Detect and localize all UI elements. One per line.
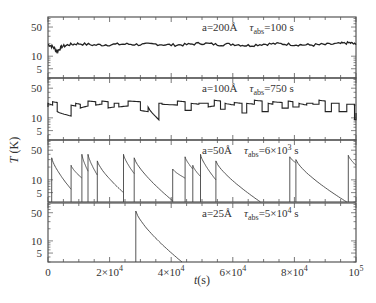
y-tick-label: 50 bbox=[31, 82, 43, 94]
y-tick-label: 5 bbox=[37, 63, 43, 75]
x-tick-label: 6×104 bbox=[219, 264, 246, 278]
decay-curve bbox=[348, 155, 356, 202]
y-axis-label: T (K) bbox=[7, 137, 21, 163]
decay-curve bbox=[201, 154, 216, 202]
decay-curve bbox=[134, 158, 173, 202]
x-tick-label: 4×104 bbox=[158, 264, 185, 278]
panel-annotation: a=200Åτabs=100 s bbox=[202, 21, 294, 36]
x-axis-label: t(s) bbox=[194, 273, 210, 287]
data-series bbox=[48, 42, 356, 52]
y-tick-label: 50 bbox=[31, 144, 43, 156]
decay-curve bbox=[290, 157, 296, 202]
panel-4: 50105a=25Åτabs=5×104 s bbox=[31, 203, 356, 262]
y-tick-label: 5 bbox=[37, 125, 43, 137]
y-tick-label: 50 bbox=[31, 207, 43, 219]
panel-1: 50105a=200Åτabs=100 s bbox=[31, 17, 356, 78]
x-tick-label: 0 bbox=[45, 266, 51, 278]
decay-curve bbox=[71, 165, 82, 202]
decay-curve bbox=[193, 165, 201, 202]
decay-curve bbox=[124, 154, 135, 202]
panels: 50105a=200Åτabs=100 s50105a=100Åτabs=750… bbox=[31, 17, 356, 262]
y-tick-label: 5 bbox=[37, 187, 43, 199]
panel-annotation: a=25Åτabs=5×104 s bbox=[202, 206, 299, 222]
decay-curve bbox=[88, 154, 97, 202]
decay-curve bbox=[82, 154, 88, 202]
decay-curve bbox=[296, 160, 347, 202]
y-tick-label: 10 bbox=[31, 112, 43, 124]
panel-2: 50105a=100Åτabs=750 s bbox=[31, 78, 356, 140]
decay-curve bbox=[216, 161, 261, 202]
x-tick-label: 105 bbox=[349, 264, 364, 278]
decay-curve bbox=[97, 161, 123, 202]
panel-annotation: a=50Åτabs=6×103 s bbox=[202, 143, 299, 159]
x-tick-label: 2×104 bbox=[96, 264, 123, 278]
data-series bbox=[48, 100, 356, 120]
decay-curve bbox=[52, 158, 71, 202]
decay-curve bbox=[136, 211, 182, 262]
y-tick-label: 50 bbox=[31, 21, 43, 33]
x-tick-label: 8×104 bbox=[281, 264, 308, 278]
panel-3: 50105a=50Åτabs=6×103 s bbox=[31, 140, 356, 202]
decay-curve bbox=[173, 169, 185, 202]
y-tick-label: 10 bbox=[31, 50, 43, 62]
chart: 50105a=200Åτabs=100 s50105a=100Åτabs=750… bbox=[0, 0, 376, 303]
panel-annotation: a=100Åτabs=750 s bbox=[202, 82, 294, 97]
decay-curve bbox=[185, 157, 193, 202]
y-tick-label: 10 bbox=[31, 174, 43, 186]
y-tick-label: 10 bbox=[31, 235, 43, 247]
y-tick-label: 5 bbox=[37, 247, 43, 259]
